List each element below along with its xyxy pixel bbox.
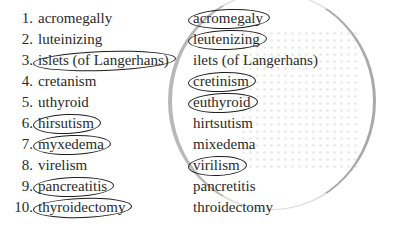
list-item: pancretitis [193, 176, 318, 197]
item-number: 7. [13, 134, 33, 155]
word-option-circled[interactable]: thyroidectomy [38, 197, 125, 218]
list-item: throidectomy [193, 197, 318, 218]
list-item: 4.cretanism [13, 71, 169, 92]
list-item: 8.virelism [13, 155, 169, 176]
word-option[interactable]: cretanism [38, 71, 96, 92]
list-item: mixedema [193, 134, 318, 155]
word-option[interactable]: hirtsutism [193, 113, 253, 134]
word-option-circled[interactable]: acromegaly [193, 8, 263, 29]
list-item: 1.acromegally [13, 8, 169, 29]
alternate-spelling-column: acromegaly leutenizing ilets (of Langerh… [193, 8, 318, 218]
list-item: ilets (of Langerhans) [193, 50, 318, 71]
item-number: 6. [13, 113, 33, 134]
list-item: 6.hirsutism [13, 113, 169, 134]
word-option-circled[interactable]: hirsutism [38, 113, 94, 134]
item-number: 5. [13, 92, 33, 113]
list-item: 7.myxedema [13, 134, 169, 155]
list-item: 9.pancreatitis [13, 176, 169, 197]
word-option-circled[interactable]: virilism [193, 155, 240, 176]
item-number: 10. [13, 197, 33, 218]
item-number: 8. [13, 155, 33, 176]
list-item: hirtsutism [193, 113, 318, 134]
list-item: euthyroid [193, 92, 318, 113]
item-number: 2. [13, 29, 33, 50]
item-number: 3. [13, 50, 33, 71]
word-option[interactable]: uthyroid [38, 92, 89, 113]
list-item: leutenizing [193, 29, 318, 50]
list-item: acromegaly [193, 8, 318, 29]
word-option[interactable]: mixedema [193, 134, 255, 155]
misspelled-word-column: 1.acromegally 2.luteinizing 3.islets (of… [13, 8, 169, 218]
word-option-circled[interactable]: euthyroid [193, 92, 251, 113]
list-item: virilism [193, 155, 318, 176]
list-item: 2.luteinizing [13, 29, 169, 50]
item-number: 4. [13, 71, 33, 92]
word-option[interactable]: acromegally [38, 8, 112, 29]
list-item: 10.thyroidectomy [13, 197, 169, 218]
word-option-circled[interactable]: myxedema [38, 134, 104, 155]
list-item: 3.islets (of Langerhans) [13, 50, 169, 71]
item-number: 9. [13, 176, 33, 197]
word-option[interactable]: throidectomy [193, 197, 273, 218]
list-item: cretinism [193, 71, 318, 92]
word-option-circled[interactable]: pancreatitis [38, 176, 107, 197]
word-option[interactable]: virelism [38, 155, 87, 176]
item-number: 1. [13, 8, 33, 29]
list-item: 5.uthyroid [13, 92, 169, 113]
word-option[interactable]: ilets (of Langerhans) [193, 50, 318, 71]
word-option[interactable]: pancretitis [193, 176, 255, 197]
word-option-circled[interactable]: cretinism [193, 71, 249, 92]
word-option[interactable]: luteinizing [38, 29, 102, 50]
word-option-circled[interactable]: leutenizing [193, 29, 260, 50]
word-option-circled[interactable]: islets (of Langerhans) [38, 50, 169, 71]
